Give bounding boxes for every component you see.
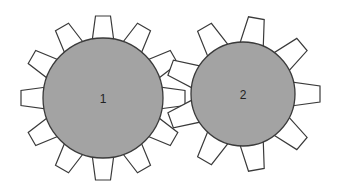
gear-1: 1 xyxy=(21,16,185,180)
gear-2-label: 2 xyxy=(240,88,247,102)
gear-1-label: 1 xyxy=(100,92,107,106)
gear-diagram: 1 2 xyxy=(0,0,338,192)
gear-2: 2 xyxy=(168,17,320,171)
